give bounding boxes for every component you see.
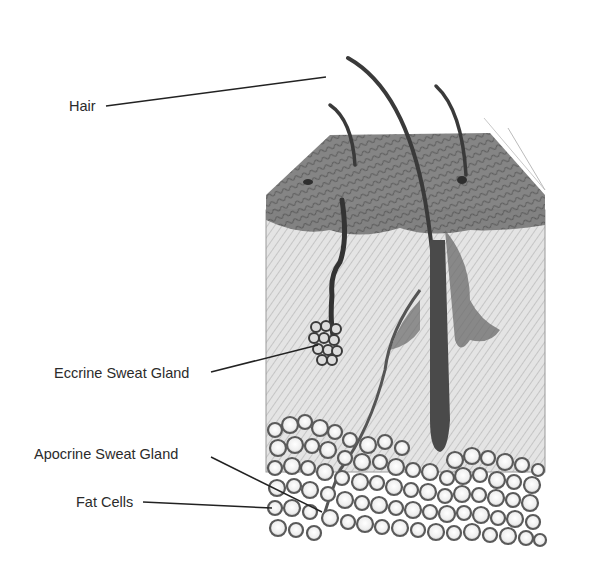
label-fat-cells: Fat Cells <box>76 495 133 510</box>
label-hair: Hair <box>69 99 96 114</box>
hair-leader-line <box>106 77 326 106</box>
fat-cells-leader-line <box>143 502 272 508</box>
label-eccrine-sweat-gland: Eccrine Sweat Gland <box>54 366 189 381</box>
label-apocrine-sweat-gland: Apocrine Sweat Gland <box>34 447 178 462</box>
